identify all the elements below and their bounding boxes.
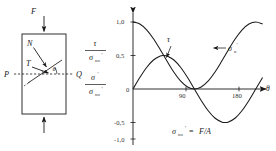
annotation-rhs: F/A: [198, 127, 211, 136]
angle-label: θ: [53, 65, 57, 73]
sigma-numerator-prime: ′: [98, 71, 99, 77]
annotation-sigma-symbol: σ: [172, 127, 177, 136]
tau-curve-label: τ: [167, 35, 171, 44]
y-tick-label-2: 0,5: [116, 52, 125, 59]
annotation-sigma-subscript: no: [178, 132, 183, 137]
point-p-label: P: [3, 70, 9, 79]
figure-canvas: F N T θ P Q: [0, 0, 276, 151]
stress-plot: 1,0 0,5 0 -0,5 -1,0 90 180 θ τ: [85, 13, 270, 145]
y-tick-label-1: 1,0: [116, 18, 125, 25]
tau-callout-arrow: [167, 46, 172, 58]
tau-denominator-symbol: σ: [89, 53, 94, 62]
point-q-label: Q: [76, 70, 82, 79]
sigma-denominator-subscript: no: [95, 92, 100, 97]
y-tick-label-4: -0,5: [114, 119, 125, 126]
sigma-n-symbol: σ: [228, 44, 233, 53]
free-body-diagram: F N T θ P Q: [3, 7, 82, 133]
sigma-no-definition: σ no ′ = F/A: [172, 125, 211, 137]
y-tick-label-3: 0: [126, 86, 130, 93]
sigma-n-curve-label: σ n ′: [228, 42, 238, 54]
shear-force-arrow: [32, 67, 49, 73]
sigma-n-prime: ′: [237, 42, 238, 48]
curve-sigma-n: [133, 22, 263, 89]
shear-force-label: T: [26, 59, 32, 68]
x-axis-label: θ: [266, 84, 270, 93]
sigma-denominator-prime: ′: [102, 86, 103, 92]
sigma-numerator-symbol: σ: [91, 73, 96, 82]
x-tick-label-90: 90: [179, 92, 186, 99]
annotation-equals: =: [189, 127, 194, 136]
annotation-sigma-prime: ′: [185, 125, 186, 131]
normal-force-arrow: [34, 48, 47, 68]
stress-figure: F N T θ P Q: [0, 0, 276, 151]
tau-denominator-prime: ′: [102, 52, 103, 58]
tau-denominator-subscript: no: [95, 58, 100, 63]
force-top-label: F: [30, 7, 37, 16]
y-axis-label-sigma-ratio: σ ′ σ no ′: [85, 71, 106, 97]
tau-numerator: τ: [94, 39, 98, 48]
sigma-denominator-symbol: σ: [89, 87, 94, 96]
sigma-n-subscript: n: [234, 49, 237, 54]
y-tick-label-5: -1,0: [114, 136, 125, 143]
y-axis-label-tau-ratio: τ σ no ′: [85, 39, 106, 63]
x-tick-label-180: 180: [232, 92, 243, 99]
normal-force-label: N: [26, 39, 33, 48]
